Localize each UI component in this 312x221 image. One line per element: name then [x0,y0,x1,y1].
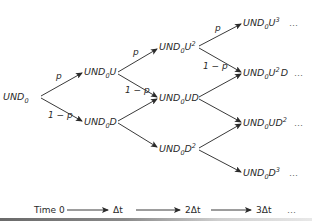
node-und0-d2: UND0D2 [159,142,196,157]
continuation-ellipsis: … [294,68,303,78]
edge-n1d-n2dd [118,123,157,147]
node-und0-u2d: UND0U2D [243,66,288,81]
node-und0-u: UND0U [84,66,117,80]
tree-edges [41,24,241,172]
edge-n2ud-n3uud [199,74,241,97]
node-und0-d: UND0D [84,116,117,130]
node-und0-u2: UND0U2 [159,40,196,55]
timeline-step-3: 3Δt [256,205,272,215]
prob-down-label: 1 − p [203,61,228,71]
continuation-ellipsis: … [294,118,303,128]
prob-up-label: p [214,23,221,33]
node-und0-d3: UND0D3 [243,166,280,181]
continuation-ellipsis: … [289,168,298,178]
edge-n2dd-n3udd [199,124,241,148]
node-und0-ud: UND0UD [159,92,199,106]
timeline-step-1: Δt [113,205,123,215]
timeline-continuation: … [287,205,296,215]
continuation-ellipsis: … [289,18,298,28]
edge-n1d-n2ud [118,99,157,121]
prob-down-label: 1 − p [48,110,73,120]
prob-up-label: p [55,71,62,81]
edge-n2ud-n3udd [199,99,241,122]
edge-labels: p 1 − p p 1 − p p 1 − p [48,23,228,120]
prob-down-label: 1 − p [125,85,150,95]
binomial-tree-diagram: p 1 − p p 1 − p p 1 − p UND0 UND0U UND0D… [0,0,312,221]
timeline: Time 0 Δt 2Δt 3Δt … [33,205,296,215]
node-und0: UND0 [3,91,29,105]
timeline-step-2: 2Δt [185,205,201,215]
timeline-start-label: Time 0 [33,205,65,215]
node-und0-ud2: UND0UD2 [243,116,287,131]
node-und0-u3: UND0U3 [243,16,280,31]
prob-up-label: p [132,47,139,57]
bottom-rule [0,218,312,221]
edge-n2dd-n3ddd [199,150,241,172]
tree-nodes: UND0 UND0U UND0D UND0U2 UND0UD UND0D2 UN… [3,16,303,181]
